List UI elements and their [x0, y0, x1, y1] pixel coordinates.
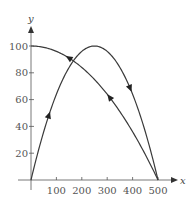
x-tick-label: 300: [98, 185, 117, 196]
phase-plot: xy10020030040050020406080100: [0, 0, 195, 205]
y-axis-arrow-icon: [28, 26, 34, 33]
x-tick-label: 100: [47, 185, 66, 196]
y-tick-label: 40: [15, 121, 28, 132]
y-tick-label: 100: [9, 41, 28, 52]
direction-arrow-icon: [126, 84, 135, 93]
direction-arrows: [45, 53, 135, 119]
x-axis-arrow-icon: [171, 177, 178, 183]
direction-arrow-icon: [64, 53, 73, 62]
y-tick-label: 80: [15, 67, 28, 78]
tick-labels: xy10020030040050020406080100: [9, 13, 186, 196]
x-axis-label: x: [180, 175, 186, 186]
x-tick-label: 500: [148, 185, 167, 196]
x-tick-label: 200: [72, 185, 91, 196]
y-axis-label: y: [27, 13, 34, 24]
x-tick-label: 400: [123, 185, 142, 196]
y-tick-label: 20: [15, 148, 28, 159]
y-tick-label: 60: [15, 94, 28, 105]
direction-arrow-icon: [45, 111, 53, 120]
